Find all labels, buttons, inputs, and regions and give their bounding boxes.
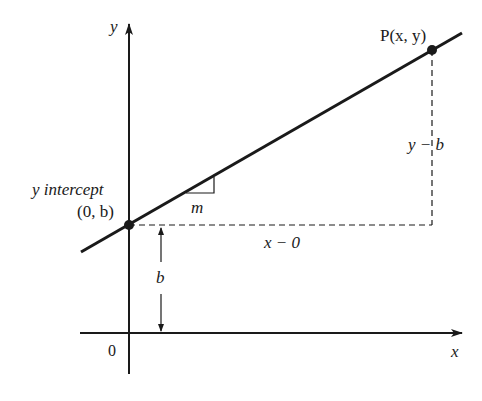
x-axis-label: x bbox=[450, 342, 459, 361]
intercept-label-line1: y intercept bbox=[30, 180, 105, 199]
point-p-label: P(x, y) bbox=[380, 26, 426, 45]
slope-label: m bbox=[191, 198, 203, 217]
intercept-height-label: b bbox=[156, 268, 165, 287]
rise-label: y − b bbox=[406, 135, 444, 154]
origin-label: 0 bbox=[108, 342, 116, 359]
point-p bbox=[427, 45, 437, 55]
intercept-label-line2: (0, b) bbox=[77, 202, 114, 221]
y-axis-label: y bbox=[108, 17, 118, 36]
regression-line bbox=[81, 33, 462, 252]
slope-intercept-diagram: y x 0 y intercept (0, b) P(x, y) m y − b… bbox=[0, 0, 482, 401]
intercept-point bbox=[124, 220, 134, 230]
intercept-label-text: y intercept bbox=[30, 180, 105, 199]
run-label: x − 0 bbox=[263, 233, 301, 252]
